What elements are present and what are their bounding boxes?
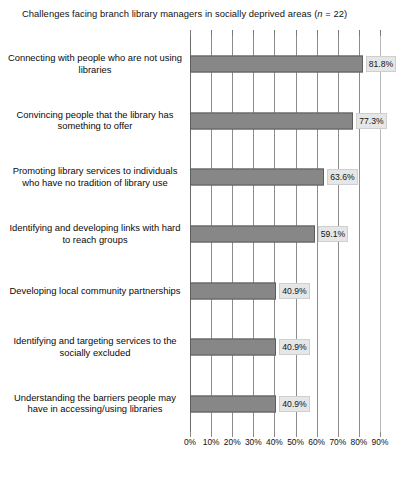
bar-value-label: 63.6% xyxy=(327,169,357,185)
x-tick-label: 50% xyxy=(287,437,304,448)
chart-title-main: Challenges facing branch library manager… xyxy=(22,8,317,19)
bar-value-label: 40.9% xyxy=(279,283,309,299)
bar xyxy=(190,225,315,242)
x-tick-label: 30% xyxy=(245,437,262,448)
x-tick-label: 20% xyxy=(224,437,241,448)
category-label: Promoting library services to individual… xyxy=(6,166,184,189)
x-tick-label: 80% xyxy=(350,437,367,448)
category-label: Identifying and developing links with ha… xyxy=(6,222,184,245)
bar xyxy=(190,56,363,73)
category-label: Identifying and targeting services to th… xyxy=(6,336,184,359)
bar-value-label: 59.1% xyxy=(318,226,348,242)
bar xyxy=(190,112,353,129)
chart-title: Challenges facing branch library manager… xyxy=(22,8,382,19)
x-tick-label: 60% xyxy=(308,437,325,448)
x-tick-label: 10% xyxy=(203,437,220,448)
bar-row: Convincing people that the library has s… xyxy=(0,93,391,150)
bar-row: Identifying and targeting services to th… xyxy=(0,319,391,376)
x-tick-label: 40% xyxy=(266,437,283,448)
x-axis-tick-labels: 0%10%20%30%40%50%60%70%80%90% xyxy=(190,437,390,451)
bar xyxy=(190,169,324,186)
category-label: Developing local community partnerships xyxy=(6,285,184,297)
bar xyxy=(190,339,276,356)
chart-title-tail: = 22) xyxy=(323,8,348,19)
category-label: Understanding the barriers people may ha… xyxy=(6,392,184,415)
bar-row: Connecting with people who are not using… xyxy=(0,36,391,93)
bar-value-label: 40.9% xyxy=(279,396,309,412)
bar-value-label: 81.8% xyxy=(366,56,396,72)
bar-row: Developing local community partnerships4… xyxy=(0,262,391,319)
bar-row: Understanding the barriers people may ha… xyxy=(0,375,391,432)
x-tick-label: 90% xyxy=(372,437,389,448)
bar xyxy=(190,282,276,299)
bar-row: Promoting library services to individual… xyxy=(0,149,391,206)
category-label: Convincing people that the library has s… xyxy=(6,109,184,132)
x-tick-label: 0% xyxy=(184,437,196,448)
bar-value-label: 77.3% xyxy=(356,113,386,129)
bar-value-label: 40.9% xyxy=(279,339,309,355)
bar xyxy=(190,395,276,412)
category-label: Connecting with people who are not using… xyxy=(6,53,184,76)
x-tick-label: 70% xyxy=(329,437,346,448)
bar-row: Identifying and developing links with ha… xyxy=(0,206,391,263)
